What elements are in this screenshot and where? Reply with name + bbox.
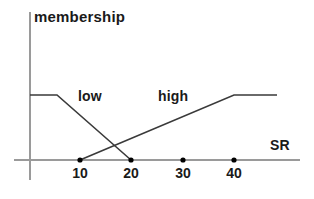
x-tick-label-20: 20 (114, 166, 148, 180)
tick-marker-10 (77, 157, 82, 162)
tick-marker-30 (180, 157, 185, 162)
series-label-high: high (158, 89, 188, 103)
membership-function-chart: membership SR low high 10 20 30 40 (0, 0, 314, 199)
chart-plot-area (0, 0, 314, 199)
x-tick-label-10: 10 (63, 166, 97, 180)
y-axis-label: membership (34, 9, 125, 24)
series-high-curve (80, 95, 277, 160)
series-label-low: low (78, 89, 102, 103)
x-tick-label-40: 40 (217, 166, 251, 180)
x-tick-label-30: 30 (166, 166, 200, 180)
tick-marker-20 (128, 157, 133, 162)
series-low-curve (30, 95, 131, 160)
x-axis-label: SR (270, 138, 290, 152)
tick-marker-40 (231, 157, 236, 162)
